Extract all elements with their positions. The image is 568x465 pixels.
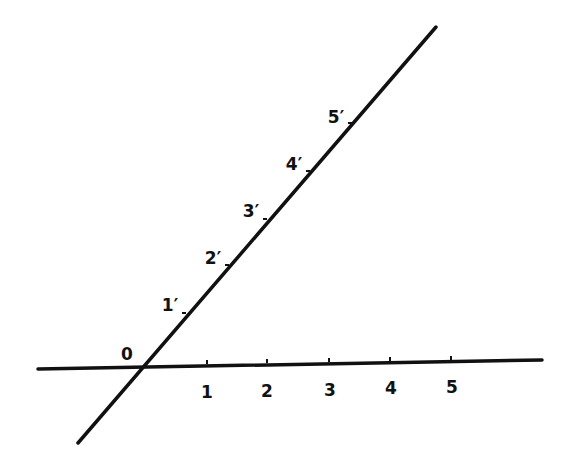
diagram-canvas: 12345 1′2′3′4′5′ 0 (0, 0, 568, 465)
tick-label: 5′ (328, 107, 345, 127)
tick-label: 4′ (286, 154, 303, 174)
diagonal-ticks: 1′2′3′4′5′ (162, 107, 352, 315)
angle-diagram: 12345 1′2′3′4′5′ 0 (0, 0, 568, 465)
tick-label: 3′ (243, 201, 260, 221)
tick-label: 4 (385, 378, 397, 398)
diagonal-line (78, 27, 436, 443)
horizontal-line (38, 360, 542, 369)
tick-label: 2 (261, 381, 273, 401)
tick-label: 5 (446, 377, 458, 397)
origin-label: 0 (121, 344, 133, 364)
tick-label: 1 (201, 382, 213, 402)
tick-label: 1′ (162, 295, 179, 315)
tick-label: 2′ (205, 248, 222, 268)
tick-label: 3 (324, 380, 336, 400)
